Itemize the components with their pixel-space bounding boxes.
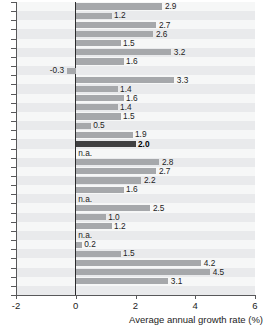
bar-value-label: 1.5 — [123, 249, 135, 257]
bar-row — [0, 260, 265, 266]
bar — [76, 251, 121, 257]
bar-row — [0, 3, 265, 9]
bar-row — [0, 159, 265, 165]
bar — [76, 58, 124, 64]
bar — [76, 77, 175, 83]
bar — [76, 159, 160, 165]
bar-value-label: 1.6 — [126, 57, 138, 65]
bar-value-label: 1.9 — [135, 130, 147, 138]
bar-row — [0, 168, 265, 174]
x-axis-title: Average annual growth rate (%) — [129, 314, 263, 325]
bar-value-label: 0.5 — [93, 121, 105, 129]
bar — [76, 205, 151, 211]
x-axis-tick — [195, 295, 196, 299]
bar — [76, 242, 82, 248]
bar-row — [0, 223, 265, 229]
bar-value-label: 1.6 — [126, 185, 138, 193]
bar-row — [0, 205, 265, 211]
x-axis-tick — [255, 295, 256, 299]
bar-row — [0, 196, 265, 202]
bar-value-label: n.a. — [78, 149, 92, 157]
bar — [76, 123, 91, 129]
x-axis-tick — [136, 295, 137, 299]
bar — [76, 278, 169, 284]
x-axis-tick-label: 6 — [252, 300, 257, 311]
x-axis-tick — [76, 295, 77, 299]
bar-chart: -20246 2.91.22.72.61.53.21.6-0.33.31.41.… — [0, 0, 265, 329]
bar-row — [0, 68, 265, 74]
bar-value-label: 2.9 — [165, 2, 177, 10]
bar-value-label: 1.4 — [120, 103, 132, 111]
bar-value-label: 1.5 — [123, 39, 135, 47]
x-axis-tick-label: 0 — [73, 300, 78, 311]
bar — [76, 214, 106, 220]
bar-row — [0, 232, 265, 238]
bar-value-label: 0.2 — [84, 240, 96, 248]
bar-row — [0, 242, 265, 248]
bar-row — [0, 77, 265, 83]
bar-value-label: 1.2 — [114, 11, 126, 19]
bar-value-label: 2.7 — [159, 167, 171, 175]
bar-row — [0, 123, 265, 129]
bar-value-label: n.a. — [78, 231, 92, 239]
bar-value-label: 1.4 — [120, 85, 132, 93]
bar-value-label: 3.1 — [171, 277, 183, 285]
bar-value-label: 2.8 — [162, 158, 174, 166]
x-axis-tick — [16, 295, 17, 299]
bar-value-label: 1.2 — [114, 222, 126, 230]
bar-value-label: 2.6 — [156, 30, 168, 38]
bar-value-label: 3.2 — [174, 48, 186, 56]
bar-row — [0, 31, 265, 37]
bar-value-label: 2.2 — [144, 176, 156, 184]
bar — [76, 40, 121, 46]
bar — [76, 132, 133, 138]
bar-value-label: 3.3 — [177, 76, 189, 84]
bar — [67, 68, 76, 74]
bar-row — [0, 150, 265, 156]
bar — [76, 177, 142, 183]
bar-value-label: -0.3 — [50, 66, 64, 74]
bar — [76, 86, 118, 92]
bar-row — [0, 22, 265, 28]
x-axis-tick-label: -2 — [12, 300, 20, 311]
bar-row — [0, 287, 265, 293]
bar — [76, 13, 112, 19]
bar — [76, 3, 163, 9]
x-axis-tick-label: 2 — [133, 300, 138, 311]
bar-value-label: 4.5 — [213, 268, 225, 276]
bar-value-label: 1.6 — [126, 94, 138, 102]
bar — [76, 95, 124, 101]
bar-value-label: 2.0 — [138, 140, 150, 148]
bar — [76, 223, 112, 229]
bar — [76, 113, 121, 119]
bar-value-label: 1.5 — [123, 112, 135, 120]
bar — [76, 260, 201, 266]
bar-row — [0, 269, 265, 275]
bar — [76, 187, 124, 193]
bar-row — [0, 13, 265, 19]
bar — [76, 168, 157, 174]
x-axis-tick-label: 4 — [193, 300, 198, 311]
bar — [76, 31, 154, 37]
bar-value-label: n.a. — [78, 195, 92, 203]
bar-row — [0, 177, 265, 183]
bar-row — [0, 278, 265, 284]
bar-row — [0, 141, 265, 147]
bar — [76, 49, 172, 55]
bar-row — [0, 214, 265, 220]
bar — [76, 141, 136, 147]
bar-row — [0, 132, 265, 138]
bar-value-label: 1.0 — [108, 213, 120, 221]
bar — [76, 269, 210, 275]
bar-row — [0, 86, 265, 92]
bar-value-label: 2.7 — [159, 21, 171, 29]
bar-row — [0, 49, 265, 55]
bar — [76, 104, 118, 110]
bar-value-label: 2.5 — [153, 204, 165, 212]
bar-value-label: 4.2 — [204, 259, 216, 267]
bar — [76, 22, 157, 28]
bar-row — [0, 104, 265, 110]
